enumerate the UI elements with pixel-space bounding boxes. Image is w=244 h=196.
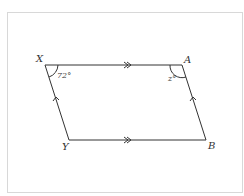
vertex-label-b: B (208, 140, 215, 151)
vertex-label-y: Y (62, 141, 69, 152)
vertex-label-a: A (184, 54, 191, 65)
angle-label-a: z° (168, 74, 176, 83)
vertex-label-x: X (36, 53, 43, 64)
parallelogram-figure (0, 0, 244, 196)
angle-label-x: 72° (57, 71, 71, 80)
